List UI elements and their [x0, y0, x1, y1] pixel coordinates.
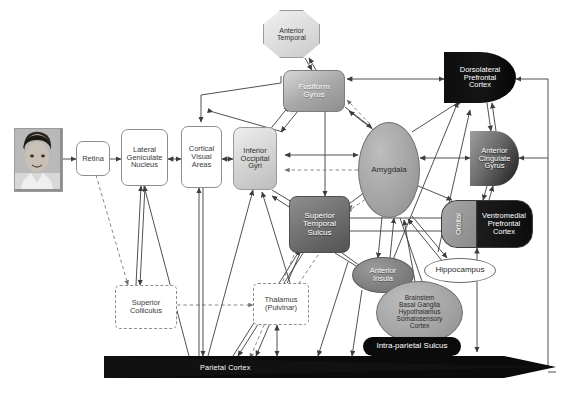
node-hippocampus-label: Hippocampus	[425, 266, 495, 274]
node-anterior-cingulate-gyrus[interactable]: Anterior Cingulate Gyrus	[470, 131, 519, 186]
node-anterior-temporal-label-2: Temporal	[262, 34, 321, 41]
node-acg-label-3: Gyrus	[468, 162, 521, 170]
node-vmpfc-text: Ventromedial Prefrontal Cortex	[476, 212, 532, 236]
node-ips-label: Intra-parietal Sulcus	[363, 342, 461, 350]
node-cortical-visual-areas[interactable]: Cortical Visual Areas	[181, 126, 222, 188]
node-fusiform-label-2: Gyrus	[282, 91, 346, 99]
node-cva-label-3: Areas	[180, 161, 223, 169]
node-lgn-label-3: Nucleus	[120, 161, 169, 169]
node-dlpfc-label-3: Cortex	[442, 81, 518, 89]
node-anterior-temporal-label-1: Anterior	[262, 27, 321, 34]
face-photo	[14, 128, 63, 192]
node-orbital-label: Orbital	[455, 213, 463, 235]
node-lateral-geniculate-nucleus[interactable]: Lateral Geniculate Nucleus	[121, 129, 168, 186]
node-thalamus-pulvinar[interactable]: Thalamus (Pulvinar)	[253, 283, 309, 325]
node-iog-label-3: Gyri	[232, 162, 278, 170]
node-brainstem-label-5: Cortex	[375, 323, 464, 330]
node-brainstem-basal-ganglia-cluster[interactable]: Brainstem Basal Ganglia Hypothalamus Som…	[376, 281, 463, 344]
node-hippocampus[interactable]: Hippocampus	[424, 258, 496, 283]
node-parietal-cortex-labelbox: Parietal Cortex	[104, 356, 556, 378]
node-retina-label: Retina	[77, 155, 109, 163]
node-sts-label-3: Sulcus	[288, 229, 351, 237]
node-amygdala[interactable]: Amygdala	[358, 122, 420, 218]
node-inferior-occipital-gyri[interactable]: Inferior Occipital Gyri	[233, 127, 277, 190]
node-parietal-cortex[interactable]: Parietal Cortex	[104, 356, 556, 378]
node-parietal-cortex-label: Parietal Cortex	[200, 363, 251, 372]
node-superior-colliculus[interactable]: Superior Colliculus	[115, 285, 177, 329]
diagram-canvas: Retina Lateral Geniculate Nucleus Cortic…	[0, 0, 564, 398]
node-amygdala-label: Amygdala	[359, 166, 419, 174]
node-dorsolateral-prefrontal-cortex[interactable]: Dorsolateral Prefrontal Cortex	[444, 52, 516, 103]
node-retina[interactable]: Retina	[76, 141, 110, 176]
node-orbital-segment[interactable]: Orbital	[442, 201, 477, 247]
node-superior-temporal-sulcus[interactable]: Superior Temporal Sulcus	[289, 196, 350, 253]
node-superior-colliculus-label-2: Colliculus	[114, 307, 178, 315]
node-fusiform-gyrus[interactable]: Fusiform Gyrus	[283, 70, 345, 112]
face-photo-image	[15, 129, 60, 189]
node-ventromedial-prefrontal-cortex[interactable]: Orbital Ventromedial Prefrontal Cortex	[441, 200, 533, 248]
node-intra-parietal-sulcus[interactable]: Intra-parietal Sulcus	[363, 337, 461, 356]
node-thalamus-label-2: (Pulvinar)	[252, 304, 310, 312]
node-vmpfc-label-3: Cortex	[474, 228, 534, 236]
